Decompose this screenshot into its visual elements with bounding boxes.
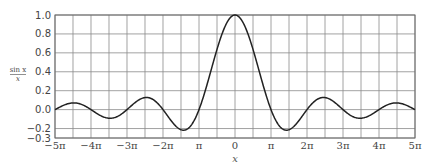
- y-tick-label: 1.0: [35, 10, 51, 21]
- x-tick-label: −2π: [152, 140, 174, 151]
- y-label-numerator: sin x: [10, 66, 27, 74]
- y-tick-label: 0.4: [35, 66, 51, 77]
- x-tick-label: 3π: [337, 140, 350, 151]
- x-tick-label: 2π: [301, 140, 314, 151]
- x-tick-label: 4π: [373, 140, 386, 151]
- x-axis-label: x: [232, 153, 238, 164]
- y-axis-ticks: 1.00.80.60.40.20.0−0.2−0.3: [27, 10, 51, 144]
- y-tick-label: 0.0: [35, 104, 51, 115]
- y-axis-label: sin x x: [10, 66, 27, 83]
- x-tick-label: π: [196, 140, 203, 151]
- y-tick-label: 0.6: [35, 47, 51, 58]
- x-tick-label: π: [268, 140, 275, 151]
- y-tick-label: 0.2: [35, 85, 51, 96]
- y-label-denominator: x: [16, 75, 20, 83]
- grid-lines: [55, 15, 415, 138]
- x-tick-label: 5π: [409, 140, 422, 151]
- x-tick-label: −3π: [116, 140, 138, 151]
- x-tick-label: −5π: [44, 140, 66, 151]
- y-tick-label: 0.8: [35, 28, 51, 39]
- x-tick-label: −4π: [80, 140, 102, 151]
- x-tick-label: 0: [232, 140, 238, 151]
- sinc-chart: 1.00.80.60.40.20.0−0.2−0.3 −5π−4π−3π−2ππ…: [0, 0, 430, 168]
- x-axis-ticks: −5π−4π−3π−2ππ0π2π3π4π5π: [44, 140, 422, 151]
